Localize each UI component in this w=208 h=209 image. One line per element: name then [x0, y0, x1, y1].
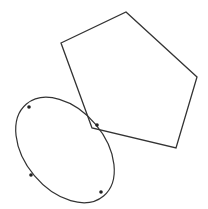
diagram-canvas — [0, 0, 208, 209]
ellipse-point — [27, 105, 31, 109]
ellipse-point — [29, 173, 33, 177]
ellipse-point — [99, 190, 103, 194]
background — [0, 0, 208, 209]
ellipse-point — [95, 123, 99, 127]
